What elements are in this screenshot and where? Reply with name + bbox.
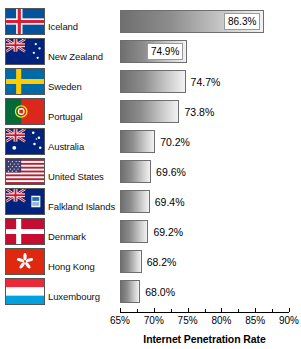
country-label: Hong Kong	[48, 261, 118, 272]
axis-minor-tick	[272, 309, 273, 312]
axis-tick-label: 65%	[110, 315, 130, 327]
axis-tick	[289, 308, 290, 312]
chart-row: Australia70.2%	[0, 128, 301, 158]
axis-tick	[154, 308, 155, 312]
bar-value-label: 69.4%	[155, 195, 185, 209]
axis-minor-tick	[238, 309, 239, 312]
country-label: Falkland Islands	[48, 201, 118, 212]
bar-value-label: 74.7%	[191, 75, 221, 89]
chart-row: Hong Kong68.2%	[0, 248, 301, 278]
chart-row: United States69.6%	[0, 158, 301, 188]
chart-row: Falkland Islands69.4%	[0, 188, 301, 218]
country-label: United States	[48, 171, 118, 182]
flag-denmark-icon	[5, 218, 45, 245]
axis-minor-tick	[171, 309, 172, 312]
country-label: New Zealand	[48, 51, 118, 62]
axis-tick-label: 80%	[211, 315, 231, 327]
bar-value-label: 69.2%	[153, 225, 183, 239]
country-label: Sweden	[48, 81, 118, 92]
bar	[120, 250, 142, 273]
bar-value-label: 70.2%	[160, 135, 190, 149]
flag-hong-kong-icon	[5, 248, 45, 275]
country-label: Denmark	[48, 231, 118, 242]
axis-minor-tick	[137, 309, 138, 312]
country-label: Luxembourg	[48, 291, 118, 302]
country-label: Iceland	[48, 21, 118, 32]
chart-row: Portugal73.8%	[0, 98, 301, 128]
bar-value-label: 73.8%	[184, 105, 214, 119]
bar	[120, 130, 155, 153]
chart-row: New Zealand74.9%	[0, 38, 301, 68]
flag-australia-icon	[5, 128, 45, 155]
axis-tick-label: 75%	[178, 315, 198, 327]
bar	[120, 100, 179, 123]
country-label: Australia	[48, 141, 118, 152]
bar-value-label: 86.3%	[224, 13, 260, 30]
axis-minor-tick	[205, 309, 206, 312]
axis-line	[120, 312, 289, 313]
flag-united-states-icon	[5, 158, 45, 185]
flag-iceland-icon	[5, 8, 45, 35]
flag-portugal-icon	[5, 98, 45, 125]
axis-title: Internet Penetration Rate	[120, 333, 289, 345]
bar	[120, 190, 150, 213]
bar	[120, 280, 140, 303]
country-label: Portugal	[48, 111, 118, 122]
flag-falkland-islands-icon	[5, 188, 45, 215]
axis-tick-label: 70%	[144, 315, 164, 327]
bar	[120, 70, 186, 93]
bar-value-label: 68.0%	[145, 285, 175, 299]
chart-row: Denmark69.2%	[0, 218, 301, 248]
chart-row: Iceland86.3%	[0, 8, 301, 38]
flag-new-zealand-icon	[5, 38, 45, 65]
axis-tick	[120, 308, 121, 312]
axis-tick	[255, 308, 256, 312]
bar-value-label: 69.6%	[156, 165, 186, 179]
flag-sweden-icon	[5, 68, 45, 95]
bar	[120, 220, 148, 243]
axis-tick-label: 90%	[279, 315, 299, 327]
axis-tick	[221, 308, 222, 312]
internet-penetration-chart: Iceland86.3% New Zealand74.9% Sweden7	[0, 0, 301, 349]
x-axis: 65%70%75%80%85%90% Internet Penetration …	[0, 308, 301, 349]
bar-value-label: 74.9%	[147, 43, 183, 60]
axis-tick	[188, 308, 189, 312]
bar	[120, 160, 151, 183]
flag-luxembourg-icon	[5, 278, 45, 305]
bar-value-label: 68.2%	[147, 255, 177, 269]
chart-row: Sweden74.7%	[0, 68, 301, 98]
axis-tick-label: 85%	[245, 315, 265, 327]
chart-row: Luxembourg68.0%	[0, 278, 301, 308]
